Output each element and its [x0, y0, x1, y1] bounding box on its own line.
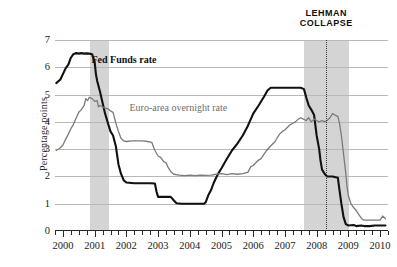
x-minor-tick — [118, 231, 119, 235]
y-axis-title: Percentage points — [38, 96, 49, 170]
series-lines — [55, 40, 388, 231]
y-tick-label-1: 1 — [45, 198, 50, 209]
lehman-collapse-annotation: LEHMAN COLLAPSE — [290, 8, 362, 29]
x-minor-tick — [174, 231, 175, 235]
x-minor-tick — [261, 231, 262, 235]
x-tick-2001 — [95, 231, 96, 237]
x-tick-2003 — [158, 231, 159, 237]
x-minor-tick — [103, 231, 104, 235]
x-minor-tick — [333, 231, 334, 235]
x-minor-tick — [356, 231, 357, 235]
x-minor-tick — [237, 231, 238, 235]
series-label-fed-funds: Fed Funds rate — [91, 54, 156, 65]
x-minor-tick — [214, 231, 215, 235]
y-tick-label-6: 6 — [45, 62, 50, 73]
lehman-line-1: LEHMAN — [290, 8, 362, 18]
x-tick-label-2004: 2004 — [179, 240, 200, 251]
x-minor-tick — [269, 231, 270, 235]
x-tick-2007 — [285, 231, 286, 237]
x-tick-2006 — [253, 231, 254, 237]
x-minor-tick — [277, 231, 278, 235]
x-tick-2000 — [63, 231, 64, 237]
x-tick-label-2001: 2001 — [84, 240, 105, 251]
y-tick-label-7: 7 — [45, 35, 50, 46]
x-minor-tick — [150, 231, 151, 235]
x-minor-tick — [182, 231, 183, 235]
x-minor-tick — [79, 231, 80, 235]
x-minor-tick — [229, 231, 230, 235]
x-tick-2008 — [317, 231, 318, 237]
x-minor-tick — [293, 231, 294, 235]
x-minor-tick — [55, 231, 56, 235]
x-tick-label-2002: 2002 — [116, 240, 137, 251]
x-tick-label-2009: 2009 — [338, 240, 359, 251]
series-line-fed-funds — [56, 53, 385, 226]
x-minor-tick — [198, 231, 199, 235]
y-tick-label-0: 0 — [45, 226, 50, 237]
lehman-collapse-line — [326, 40, 327, 231]
chart-figure: Percentage points 01234567 Fed Funds rat… — [0, 0, 397, 267]
x-minor-tick — [372, 231, 373, 235]
x-tick-label-2008: 2008 — [306, 240, 327, 251]
x-minor-tick — [71, 231, 72, 235]
x-minor-tick — [206, 231, 207, 235]
x-minor-tick — [325, 231, 326, 235]
x-minor-tick — [87, 231, 88, 235]
x-minor-tick — [245, 231, 246, 235]
plot-area: 01234567 Fed Funds rate Euro-area overni… — [55, 40, 388, 231]
x-tick-2010 — [380, 231, 381, 237]
lehman-line-2: COLLAPSE — [290, 18, 362, 28]
x-minor-tick — [134, 231, 135, 235]
x-tick-2005 — [222, 231, 223, 237]
x-tick-label-2006: 2006 — [243, 240, 264, 251]
x-tick-2009 — [348, 231, 349, 237]
x-tick-label-2005: 2005 — [211, 240, 232, 251]
x-minor-tick — [142, 231, 143, 235]
y-tick-label-2: 2 — [45, 171, 50, 182]
x-minor-tick — [364, 231, 365, 235]
x-tick-label-2010: 2010 — [370, 240, 391, 251]
x-tick-2002 — [126, 231, 127, 237]
y-tick-label-4: 4 — [45, 117, 50, 128]
x-minor-tick — [301, 231, 302, 235]
y-tick-label-3: 3 — [45, 144, 50, 155]
x-minor-tick — [111, 231, 112, 235]
x-tick-2004 — [190, 231, 191, 237]
series-label-euro-area: Euro-area overnight rate — [130, 102, 228, 113]
x-minor-tick — [309, 231, 310, 235]
x-tick-label-2007: 2007 — [274, 240, 295, 251]
x-axis: 2000200120022003200420052006200720082009… — [55, 231, 388, 267]
x-minor-tick — [388, 231, 389, 235]
x-minor-tick — [166, 231, 167, 235]
y-tick-label-5: 5 — [45, 89, 50, 100]
x-tick-label-2003: 2003 — [148, 240, 169, 251]
x-minor-tick — [340, 231, 341, 235]
x-tick-label-2000: 2000 — [52, 240, 73, 251]
